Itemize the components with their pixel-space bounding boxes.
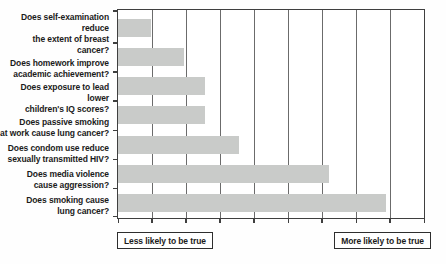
bar-row — [118, 189, 424, 218]
x-axis-tick — [219, 218, 220, 223]
category-label-row: Does exposure to lead lower children's I… — [0, 82, 113, 115]
x-axis-tick — [424, 218, 425, 223]
x-axis-tick — [356, 218, 357, 223]
category-label-row: Does self-examination reduce the extent … — [0, 12, 113, 56]
bar-row — [118, 101, 424, 130]
x-axis-tick — [389, 218, 390, 223]
category-label: Does condom use reduce sexually transmit… — [8, 143, 109, 165]
bar-row — [118, 72, 424, 101]
bar — [118, 106, 205, 124]
category-labels-column: Does self-examination reduce the extent … — [0, 9, 113, 219]
category-label-row: Does homework improve academic achieveme… — [0, 56, 113, 82]
bar — [118, 77, 205, 95]
chart-figure: Does self-examination reduce the extent … — [0, 0, 446, 264]
bar — [118, 19, 151, 37]
category-label: Does exposure to lead lower children's I… — [0, 82, 109, 115]
category-label: Does passive smoking at work cause lung … — [0, 117, 109, 139]
bars-layer — [118, 10, 424, 218]
x-axis-tick — [288, 218, 289, 223]
bar — [118, 48, 184, 66]
x-axis-tick — [151, 218, 152, 223]
bar-row — [118, 42, 424, 71]
plot-area — [117, 9, 425, 219]
more-likely-label: More likely to be true — [334, 232, 431, 249]
category-label-row: Does media violence cause aggression? — [0, 167, 113, 193]
category-label-row: Does smoking cause lung cancer? — [0, 193, 113, 219]
x-axis-tick — [253, 218, 254, 223]
x-axis-tick — [118, 218, 119, 223]
category-label-row: Does passive smoking at work cause lung … — [0, 115, 113, 141]
bar — [118, 165, 329, 183]
bar — [118, 194, 386, 212]
bar — [118, 136, 239, 154]
bar-row — [118, 13, 424, 42]
x-axis-tick — [185, 218, 186, 223]
less-likely-label: Less likely to be true — [117, 232, 213, 249]
category-label: Does smoking cause lung cancer? — [26, 195, 109, 217]
x-axis-tick — [321, 218, 322, 223]
category-label: Does homework improve academic achieveme… — [10, 58, 109, 80]
category-label: Does self-examination reduce the extent … — [0, 12, 109, 56]
bar-row — [118, 159, 424, 188]
bar-row — [118, 130, 424, 159]
category-label-row: Does condom use reduce sexually transmit… — [0, 141, 113, 167]
category-label: Does media violence cause aggression? — [27, 169, 109, 191]
